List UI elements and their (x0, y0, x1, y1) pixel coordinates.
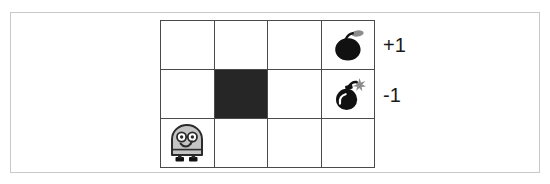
lit-bomb-icon (328, 74, 368, 114)
grid-cell-r1c3[interactable] (268, 21, 322, 70)
grid-cell-r2c2-wall (215, 70, 269, 119)
apple-bomb-icon (328, 25, 368, 65)
negative-reward-label: -1 (383, 85, 401, 105)
grid-cell-r2c1[interactable] (161, 70, 215, 119)
grid-cell-r1c4[interactable] (322, 21, 376, 70)
grid-cell-r1c2[interactable] (215, 21, 269, 70)
grid-cell-r3c2[interactable] (215, 119, 269, 168)
grid-cell-r1c1[interactable] (161, 21, 215, 70)
gridworld-figure: +1 -1 (0, 0, 550, 184)
robot-agent-icon (166, 121, 208, 165)
gridworld-grid (160, 20, 375, 168)
grid-cell-r3c4[interactable] (322, 119, 376, 168)
grid-cell-r3c3[interactable] (268, 119, 322, 168)
grid-cell-r2c3[interactable] (268, 70, 322, 119)
grid-cell-r2c4[interactable] (322, 70, 376, 119)
positive-reward-label: +1 (383, 35, 406, 55)
grid-cell-r3c1-agent[interactable] (161, 119, 215, 168)
